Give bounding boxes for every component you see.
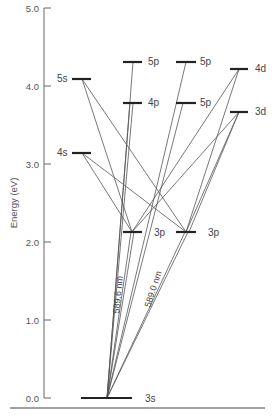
- level-label: 5p: [200, 56, 212, 67]
- transition-line: [186, 69, 239, 232]
- y-axis-title: Energy (eV): [8, 178, 19, 229]
- y-tick-label: 3.0: [26, 159, 39, 170]
- y-tick-label: 0.0: [26, 393, 39, 404]
- energy-level-5s: 5s: [57, 73, 91, 84]
- energy-level-5p_a: 5p: [123, 56, 160, 67]
- transition-line: [107, 62, 186, 398]
- level-label: 5p: [148, 56, 160, 67]
- transition-line: [107, 103, 133, 398]
- y-tick-label: 5.0: [26, 3, 39, 14]
- transition-line: [132, 112, 239, 232]
- level-label: 3p: [154, 227, 166, 238]
- y-tick-label: 2.0: [26, 237, 39, 248]
- energy-level-3s: 3s: [81, 393, 156, 404]
- energy-level-diagram: 5.04.03.02.01.00.0 Energy (eV) 3s5s4s5p4…: [0, 0, 278, 418]
- transition-line: [82, 153, 186, 232]
- y-tick-label: 1.0: [26, 315, 39, 326]
- transition-line: [186, 112, 239, 232]
- level-label: 5p: [200, 97, 212, 108]
- energy-level-3p_a: 3p: [123, 227, 166, 238]
- energy-level-5p_b2: 5p: [176, 97, 212, 108]
- level-label: 4d: [255, 63, 266, 74]
- level-label: 3s: [145, 393, 156, 404]
- level-label: 5s: [57, 73, 68, 84]
- energy-levels: 3s5s4s5p4p3p5p5p3p4d3d: [57, 56, 266, 404]
- level-label: 3p: [208, 227, 220, 238]
- transition-line: [107, 232, 134, 398]
- transition-line: [82, 153, 132, 232]
- transition-line: [189, 112, 239, 232]
- level-label: 4p: [148, 97, 160, 108]
- y-tick-label: 4.0: [26, 81, 39, 92]
- wavelength-label: 589.6 nm: [111, 276, 125, 314]
- y-axis-ticks: 5.04.03.02.01.00.0: [26, 3, 51, 404]
- energy-level-4d: 4d: [230, 63, 266, 74]
- level-label: 4s: [57, 147, 68, 158]
- energy-level-3d: 3d: [230, 106, 266, 117]
- energy-level-4p_a: 4p: [123, 97, 160, 108]
- level-label: 3d: [255, 106, 266, 117]
- wavelength-labels: 589.6 nm589.0 nm: [111, 270, 164, 314]
- energy-level-5p_b: 5p: [176, 56, 212, 67]
